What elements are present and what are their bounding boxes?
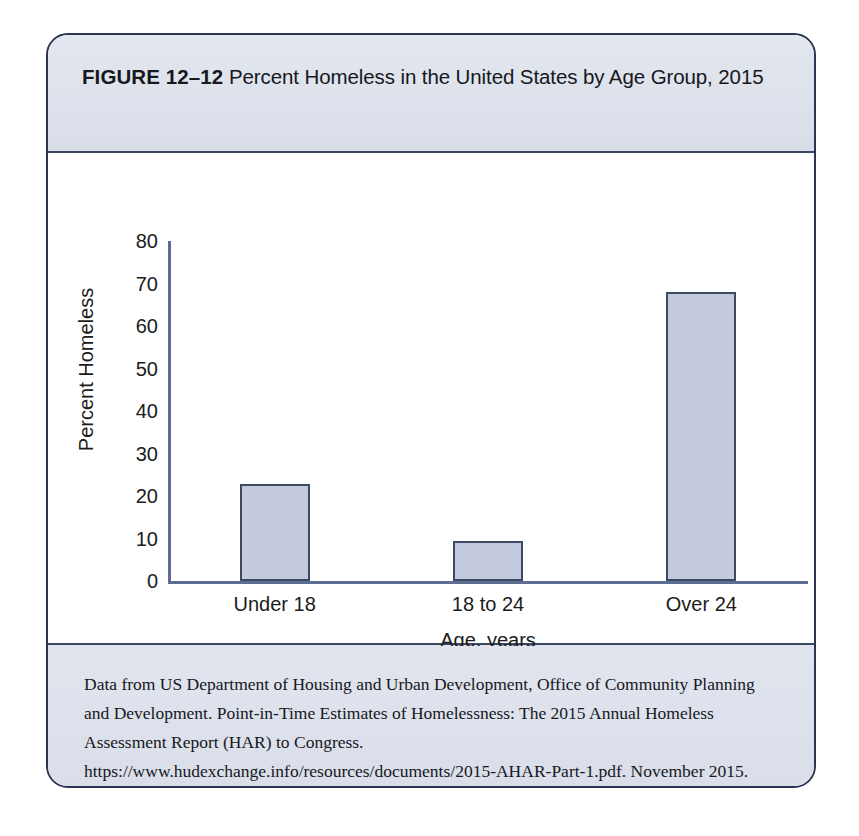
x-tick-label: Over 24 [666,593,737,616]
y-tick-label: 60 [110,315,158,338]
y-axis-label: Percent Homeless [75,270,98,470]
figure-title-band: FIGURE 12–12 Percent Homeless in the Uni… [48,35,814,153]
bar [453,541,523,581]
y-tick-label: 20 [110,485,158,508]
figure-card: FIGURE 12–12 Percent Homeless in the Uni… [46,33,816,788]
figure-caption: Data from US Department of Housing and U… [84,670,778,786]
bar [666,292,736,581]
y-tick-label: 0 [110,570,158,593]
x-axis-line [168,581,808,584]
x-tick-label: Under 18 [234,593,316,616]
y-tick-label: 70 [110,272,158,295]
figure-number-label: FIGURE 12–12 [82,65,223,88]
y-tick-label: 80 [110,230,158,253]
chart-plot-area: Percent Homeless 01020304050607080 Under… [48,153,814,645]
figure-title: FIGURE 12–12 Percent Homeless in the Uni… [82,61,780,92]
chart-inner: Percent Homeless 01020304050607080 Under… [48,153,814,643]
y-tick-label: 30 [110,442,158,465]
figure-title-text: Percent Homeless in the United States by… [229,65,764,88]
figure-caption-band: Data from US Department of Housing and U… [48,646,814,787]
y-tick-label: 40 [110,400,158,423]
y-tick-label: 10 [110,527,158,550]
bar [240,484,310,581]
y-tick-label: 50 [110,357,158,380]
x-tick-label: 18 to 24 [452,593,524,616]
bar-series [170,241,730,581]
